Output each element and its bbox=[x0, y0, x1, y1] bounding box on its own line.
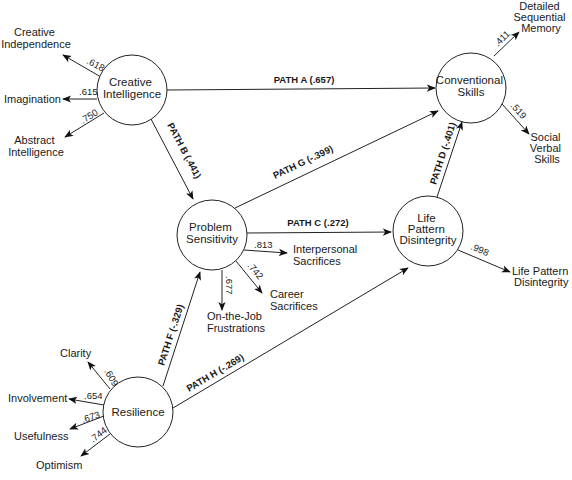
node-resilience: Resilience bbox=[103, 377, 173, 447]
path-d-label: PATH D (-.401) bbox=[427, 121, 457, 186]
indicators-creative-intelligence: .618 Creative Independence .615 Imaginat… bbox=[1, 26, 106, 158]
path-a: PATH A (.657) bbox=[167, 74, 435, 90]
path-b-label: PATH B (.441) bbox=[165, 121, 204, 180]
indicator-arrow bbox=[244, 250, 287, 253]
node-label: Resilience bbox=[111, 406, 164, 418]
node-creative-intelligence: Creative Intelligence bbox=[97, 55, 167, 125]
loading-coefficient: .813 bbox=[254, 239, 273, 250]
indicator-label: Interpersonal Sacrifices bbox=[293, 243, 360, 267]
path-a-arrow bbox=[167, 88, 435, 90]
indicator-label: Usefulness bbox=[14, 430, 69, 442]
loading-coefficient: .519 bbox=[509, 100, 530, 121]
path-c: PATH C (.272) bbox=[247, 217, 391, 233]
path-f: PATH F (-.329) bbox=[155, 272, 200, 386]
indicator-label: Life Pattern Disintegrity bbox=[512, 265, 571, 288]
node-label: Problem Sensitivity bbox=[186, 221, 238, 245]
loading-coefficient: .998 bbox=[469, 241, 490, 258]
indicator-label: Imagination bbox=[4, 93, 61, 105]
loading-coefficient: .742 bbox=[245, 260, 265, 281]
indicators-life-pattern-disintegrity: .998 Life Pattern Disintegrity bbox=[458, 241, 571, 288]
indicator-label: Social Verbal Skills bbox=[530, 131, 564, 165]
node-life-pattern-disintegrity: Life Pattern Disintegrity bbox=[393, 196, 463, 266]
indicator-label: Detailed Sequential Memory bbox=[513, 0, 568, 34]
indicator-label: On-the-Job Frustrations bbox=[207, 310, 266, 334]
loading-coefficient: .673 bbox=[80, 409, 101, 425]
loading-coefficient: .654 bbox=[84, 390, 103, 401]
indicator-label: Optimism bbox=[36, 459, 82, 471]
node-label: Creative Intelligence bbox=[103, 76, 161, 100]
loading-coefficient: .677 bbox=[224, 276, 235, 295]
loading-coefficient: .744 bbox=[87, 425, 108, 445]
path-b: PATH B (.441) bbox=[151, 119, 204, 199]
indicator-label: Career Sacrifices bbox=[270, 288, 318, 312]
loading-coefficient: .750 bbox=[78, 107, 100, 126]
node-problem-sensitivity: Problem Sensitivity bbox=[177, 200, 247, 270]
node-conventional-skills: Conventional Skills bbox=[436, 53, 506, 123]
loading-coefficient: .411 bbox=[492, 28, 512, 48]
indicator-label: Abstract Intelligence bbox=[8, 134, 64, 158]
loading-coefficient: .615 bbox=[79, 86, 98, 97]
indicator-label: Involvement bbox=[8, 392, 67, 404]
path-a-label: PATH A (.657) bbox=[274, 74, 335, 85]
path-g-arrow bbox=[235, 111, 438, 208]
indicator-label: Creative Independence bbox=[1, 26, 71, 50]
path-h-label: PATH H (-.269) bbox=[184, 351, 245, 393]
path-g: PATH G (-.399) bbox=[235, 111, 438, 208]
path-f-label: PATH F (-.329) bbox=[155, 303, 185, 367]
path-c-label: PATH C (.272) bbox=[287, 217, 348, 228]
path-diagram: PATH A (.657) PATH B (.441) PATH C (.272… bbox=[0, 0, 572, 480]
path-d: PATH D (-.401) bbox=[427, 121, 462, 197]
path-c-arrow bbox=[247, 232, 391, 233]
indicator-label: Clarity bbox=[60, 347, 92, 359]
